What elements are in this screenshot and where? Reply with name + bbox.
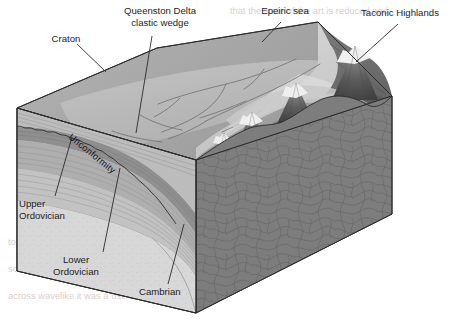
label-lower-ord-line1: Lower <box>63 254 90 265</box>
geologic-block-diagram: that the state of the art is reduced and… <box>0 0 456 322</box>
label-cambrian: Cambrian <box>139 286 181 297</box>
label-upper-ord-line2: Ordovician <box>19 210 65 221</box>
label-queenston-line2: clastic wedge <box>131 17 189 28</box>
label-upper-ord-line1: Upper <box>19 198 46 209</box>
label-lower-ord-line2: Ordovician <box>53 266 99 277</box>
leader-taconic <box>356 24 398 62</box>
label-taconic-highlands: Taconic Highlands <box>361 7 439 18</box>
leader-craton <box>77 44 106 72</box>
label-epeiric-sea: Epeiric sea <box>261 5 309 16</box>
label-craton: Craton <box>52 33 81 44</box>
label-queenston-line1: Queenston Delta <box>124 5 197 16</box>
